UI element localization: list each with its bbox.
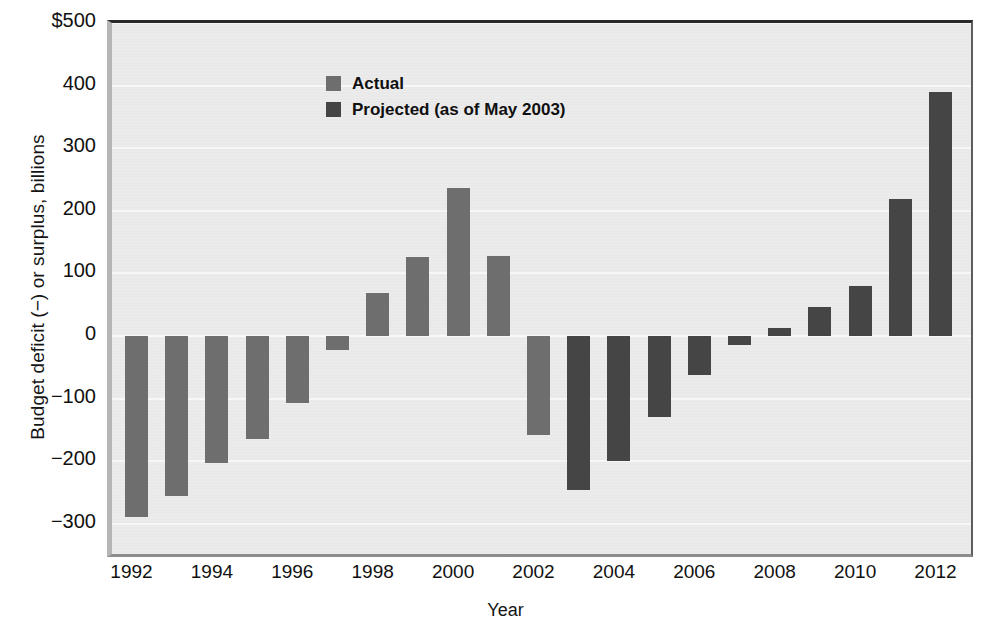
x-axis-tick-label: 1998 bbox=[352, 561, 394, 583]
bar-2006 bbox=[688, 336, 711, 375]
gridline bbox=[112, 22, 971, 24]
bar-1992 bbox=[125, 336, 148, 518]
x-axis-tick-label: 1994 bbox=[191, 561, 233, 583]
x-axis-title-text: Year bbox=[487, 600, 523, 620]
bar-1993 bbox=[165, 336, 188, 496]
bar-2002 bbox=[527, 336, 550, 435]
gridline bbox=[112, 272, 971, 274]
gridline bbox=[112, 147, 971, 149]
y-axis-tick-label: −300 bbox=[0, 509, 96, 532]
x-axis-tick-label: 2010 bbox=[834, 561, 876, 583]
bar-2011 bbox=[889, 199, 912, 335]
bar-1995 bbox=[246, 336, 269, 439]
x-axis-tick-label: 2012 bbox=[914, 561, 956, 583]
y-axis-title: Budget deficit (−) or surplus, billions bbox=[27, 77, 49, 497]
legend-label-projected: Projected (as of May 2003) bbox=[352, 101, 566, 118]
bar-2001 bbox=[487, 256, 510, 335]
bar-2012 bbox=[929, 92, 952, 336]
bar-2005 bbox=[648, 336, 671, 417]
bar-2004 bbox=[607, 336, 630, 461]
bar-1999 bbox=[406, 257, 429, 336]
x-axis-tick-label: 1996 bbox=[271, 561, 313, 583]
legend-item-actual: Actual bbox=[326, 75, 566, 92]
y-axis-tick-label: $500 bbox=[0, 9, 96, 32]
bar-2009 bbox=[808, 307, 831, 336]
x-axis-tick-label: 2006 bbox=[673, 561, 715, 583]
x-axis-title: Year bbox=[0, 600, 989, 621]
x-axis-tick-label: 2002 bbox=[512, 561, 554, 583]
legend-item-projected: Projected (as of May 2003) bbox=[326, 101, 566, 118]
bar-2007 bbox=[728, 336, 751, 345]
x-axis-tick-label: 2000 bbox=[432, 561, 474, 583]
bar-2010 bbox=[849, 286, 872, 336]
legend: Actual Projected (as of May 2003) bbox=[326, 75, 566, 127]
bar-2008 bbox=[768, 328, 791, 336]
gridline bbox=[112, 210, 971, 212]
x-axis-tick-label: 2004 bbox=[593, 561, 635, 583]
budget-deficit-bar-chart: Budget deficit (−) or surplus, billions … bbox=[0, 0, 989, 628]
bar-2003 bbox=[567, 336, 590, 490]
bar-1994 bbox=[205, 336, 228, 463]
x-axis-tick-label: 1992 bbox=[110, 561, 152, 583]
legend-swatch-actual-icon bbox=[326, 76, 341, 91]
bar-2000 bbox=[447, 188, 470, 336]
bar-1996 bbox=[286, 336, 309, 403]
x-axis-tick-label: 2008 bbox=[754, 561, 796, 583]
legend-label-actual: Actual bbox=[352, 75, 404, 92]
gridline bbox=[112, 460, 971, 462]
legend-swatch-projected-icon bbox=[326, 102, 341, 117]
bar-1998 bbox=[366, 293, 389, 336]
plot-area: Actual Projected (as of May 2003) bbox=[107, 20, 973, 557]
bar-1997 bbox=[326, 336, 349, 350]
gridline bbox=[112, 523, 971, 525]
